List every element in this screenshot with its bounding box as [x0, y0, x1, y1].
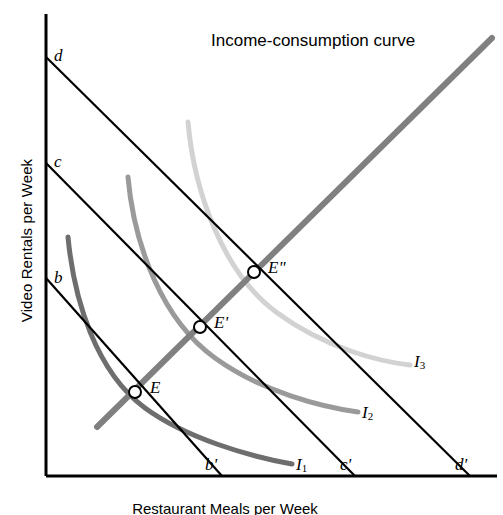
curve-label-i3: I3 [414, 352, 425, 372]
y-axis-label: Video Rentals per Week [18, 131, 35, 351]
figure-canvas: Income-consumption curve Video Rentals p… [0, 0, 503, 515]
income-consumption-diagram [0, 0, 503, 515]
indifference-curve-i2 [128, 177, 358, 412]
equilibrium-label-e: E [150, 378, 160, 398]
budget-intercept-label-d: d [54, 46, 63, 66]
budget-intercept-label-c: c [54, 152, 62, 172]
budget-intercept-label-b-prime: b' [205, 455, 217, 475]
equilibrium-label-e-prime: E' [214, 313, 228, 333]
equilibrium-label-e-double-prime: E" [268, 258, 286, 278]
budget-intercept-label-c-prime: c' [340, 455, 351, 475]
equilibrium-marker-e-prime [194, 321, 206, 333]
budget-line-bb [46, 278, 222, 476]
budget-intercept-label-d-prime: d' [455, 455, 467, 475]
curve-label-i1: I1 [296, 455, 307, 475]
equilibrium-marker-e-double-prime [248, 266, 260, 278]
curve-label-i2: I2 [362, 403, 373, 423]
equilibrium-marker-e [129, 386, 141, 398]
income-consumption-curve-line [97, 38, 492, 427]
chart-title: Income-consumption curve [211, 31, 415, 51]
budget-intercept-label-b: b [54, 268, 63, 288]
x-axis-label: Restaurant Meals per Week [60, 500, 390, 515]
